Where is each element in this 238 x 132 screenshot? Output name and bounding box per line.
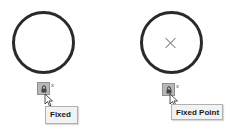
tooltip: Fixed [45,106,78,124]
remove-constraint-icon[interactable]: x [176,83,179,89]
tooltip-text: Fixed [50,110,71,119]
tooltip: Fixed Point [171,104,223,120]
tooltip-text: Fixed Point [176,108,219,117]
mouse-cursor-icon [44,93,54,107]
lock-icon [41,85,47,93]
remove-constraint-icon[interactable]: x [51,82,54,88]
right-panel: x Fixed Point [119,0,238,132]
center-point-icon[interactable] [165,37,177,49]
left-panel: x Fixed [0,0,119,132]
sketch-circle[interactable] [12,11,75,74]
